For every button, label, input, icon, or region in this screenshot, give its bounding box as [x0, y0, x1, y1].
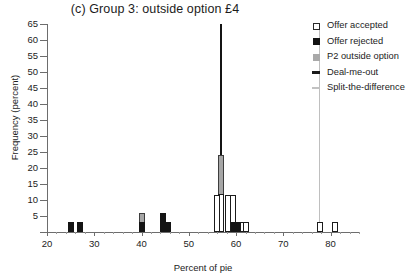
legend-item-outside: P2 outside option [309, 50, 414, 64]
y-tick [40, 216, 47, 217]
x-tick-label: 20 [27, 239, 67, 249]
x-tick-minor [75, 232, 76, 234]
legend-item-accepted: Offer accepted [309, 19, 414, 33]
legend-swatch-split-icon [309, 87, 323, 89]
bar-accepted [332, 222, 338, 232]
x-tick-minor [255, 232, 256, 234]
y-tick [40, 24, 47, 25]
y-tick [40, 40, 47, 41]
x-tick-minor [132, 232, 133, 234]
x-tick-minor [198, 232, 199, 234]
y-tick-label: 5 [4, 211, 38, 221]
x-tick-label: 60 [216, 239, 256, 249]
legend-item-split: Split-the-difference [309, 81, 414, 95]
x-tick-minor [312, 232, 313, 234]
legend-label: Split-the-difference [323, 83, 405, 92]
x-tick [142, 232, 143, 236]
x-tick-minor [56, 232, 57, 234]
y-axis-title: Frequency (percent) [9, 53, 20, 183]
x-tick-minor [123, 232, 124, 234]
bar-rejected [165, 222, 171, 232]
bar-accepted [243, 222, 249, 232]
legend-swatch-dealout-icon [309, 71, 323, 74]
legend-label: Deal-me-out [323, 68, 378, 77]
x-tick-minor [113, 232, 114, 234]
y-tick [40, 56, 47, 57]
x-tick-minor [179, 232, 180, 234]
x-tick-minor [227, 232, 228, 234]
legend-swatch-accepted-icon [309, 23, 323, 30]
y-tick [40, 120, 47, 121]
x-tick [331, 232, 332, 236]
y-tick [40, 88, 47, 89]
x-tick-minor [104, 232, 105, 234]
bar-rejected [139, 222, 145, 232]
legend-swatch-outside-icon [309, 54, 323, 61]
x-tick [189, 232, 190, 236]
bar-accepted [317, 222, 323, 232]
x-tick [283, 232, 284, 236]
y-tick [40, 104, 47, 105]
x-tick-label: 80 [311, 239, 351, 249]
x-tick-minor [208, 232, 209, 234]
x-tick-label: 70 [263, 239, 303, 249]
x-tick-minor [170, 232, 171, 234]
x-tick [47, 232, 48, 236]
x-tick-label: 30 [74, 239, 114, 249]
x-tick-minor [274, 232, 275, 234]
x-tick-minor [264, 232, 265, 234]
legend-label: Offer accepted [323, 21, 388, 30]
x-tick-minor [350, 232, 351, 234]
legend-label: P2 outside option [323, 52, 399, 61]
x-tick-minor [217, 232, 218, 234]
legend-item-dealout: Deal-me-out [309, 66, 414, 80]
y-tick-label: 60 [4, 35, 38, 45]
x-tick-label: 40 [122, 239, 162, 249]
x-tick-minor [321, 232, 322, 234]
y-tick [40, 152, 47, 153]
chart-title: (c) Group 3: outside option £4 [0, 2, 310, 16]
x-tick-minor [246, 232, 247, 234]
y-tick [40, 184, 47, 185]
x-tick-minor [340, 232, 341, 234]
y-tick-label: 10 [4, 195, 38, 205]
y-tick [40, 200, 47, 201]
x-tick [236, 232, 237, 236]
chart-legend: Offer acceptedOffer rejectedP2 outside o… [309, 19, 414, 97]
legend-item-rejected: Offer rejected [309, 35, 414, 49]
legend-label: Offer rejected [323, 37, 383, 46]
x-tick-minor [160, 232, 161, 234]
y-tick [40, 168, 47, 169]
x-tick-minor [302, 232, 303, 234]
x-tick-label: 50 [169, 239, 209, 249]
bar-accepted [214, 195, 220, 232]
y-tick-label: 65 [4, 19, 38, 29]
bar-rejected [77, 222, 83, 232]
bar-rejected [68, 222, 74, 232]
legend-swatch-rejected-icon [309, 38, 323, 45]
x-axis-title: Percent of pie [47, 262, 359, 273]
y-tick [40, 136, 47, 137]
x-tick-minor [66, 232, 67, 234]
y-tick [40, 72, 47, 73]
x-tick-minor [151, 232, 152, 234]
x-tick-minor [85, 232, 86, 234]
chart-container: (c) Group 3: outside option £4 510152025… [0, 0, 414, 280]
x-tick-minor [293, 232, 294, 234]
y-tick [40, 232, 47, 233]
x-tick [94, 232, 95, 236]
x-tick-minor [359, 232, 360, 234]
